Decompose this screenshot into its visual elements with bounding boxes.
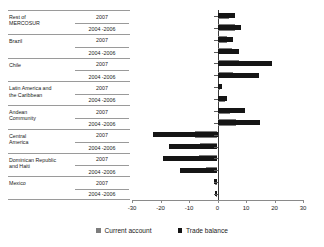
bar-trade-balance (218, 49, 239, 54)
bar-trade-balance (218, 61, 272, 66)
period-divider (75, 189, 129, 190)
category-group-label: Dominican Republicand Haiti (9, 154, 71, 170)
bar-trade-balance (218, 73, 259, 78)
period-label: 2007 (75, 156, 129, 162)
category-group-row: Dominican Republicand Haiti20072004 -200… (8, 153, 130, 177)
category-group-label: Chile (9, 59, 71, 68)
bar-trade-balance (218, 84, 223, 89)
category-group-label: CentralAmerica (9, 130, 71, 146)
category-group-row: Chile20072004 -2006 (8, 58, 130, 82)
category-group-row: Latin America andthe Caribbean20072004 -… (8, 81, 130, 105)
period-label: 2007 (75, 37, 129, 43)
period-label: 2004 -2006 (75, 121, 129, 127)
legend-item-current-account: Current account (96, 227, 151, 234)
legend-label-trade-balance: Trade balance (186, 227, 228, 234)
bar-trade-balance (218, 120, 260, 125)
period-label: 2007 (75, 180, 129, 186)
x-axis-tick-label: 30 (290, 205, 316, 211)
row-tick (214, 182, 218, 183)
legend-label-current-account: Current account (105, 227, 152, 234)
category-group-row: Brazil20072004 -2006 (8, 34, 130, 58)
x-axis-tick (132, 200, 133, 203)
period-label: 2004 -2006 (75, 50, 129, 56)
period-divider (75, 165, 129, 166)
x-axis-tick (275, 200, 276, 203)
period-label: 2007 (75, 61, 129, 67)
row-tick (214, 194, 218, 195)
row-tick (214, 28, 218, 29)
row-tick (214, 123, 218, 124)
bar-trade-balance (218, 96, 228, 101)
x-axis-tick-label: -30 (119, 205, 145, 211)
category-group-row: AndeanCommunity20072004 -2006 (8, 105, 130, 129)
period-divider (75, 47, 129, 48)
row-tick (214, 111, 218, 112)
bar-trade-balance (153, 132, 217, 137)
category-group-label: AndeanCommunity (9, 106, 71, 122)
period-label: 2007 (75, 14, 129, 20)
bar-trade-balance (218, 37, 233, 42)
period-label: 2004 -2006 (75, 169, 129, 175)
bar-trade-balance (218, 25, 241, 30)
period-label: 2007 (75, 85, 129, 91)
category-group-label: Mexico (9, 177, 71, 186)
row-tick (214, 63, 218, 64)
category-group-row: Mexico20072004 -2006 (8, 176, 130, 200)
x-axis-tick-label: -20 (148, 205, 174, 211)
category-group-row: Rest ofMERCOSUR20072004 -2006 (8, 10, 130, 34)
row-tick (214, 170, 218, 171)
x-axis-tick-label: 0 (205, 205, 231, 211)
x-axis-tick-label: -10 (176, 205, 202, 211)
x-axis-tick (189, 200, 190, 203)
x-axis-tick (246, 200, 247, 203)
period-label: 2004 -2006 (75, 191, 129, 197)
bar-trade-balance (218, 108, 245, 113)
period-label: 2004 -2006 (75, 97, 129, 103)
category-group-row: CentralAmerica20072004 -2006 (8, 129, 130, 153)
x-axis-tick (218, 200, 219, 203)
period-label: 2004 -2006 (75, 26, 129, 32)
bar-trade-balance (180, 168, 217, 173)
row-tick (214, 158, 218, 159)
row-tick (214, 16, 218, 17)
bar-trade-balance (218, 13, 236, 18)
category-group-label: Latin America andthe Caribbean (9, 82, 71, 98)
period-label: 2004 -2006 (75, 145, 129, 151)
bar-trade-balance (163, 156, 217, 161)
period-divider (75, 118, 129, 119)
bar-trade-balance (169, 144, 217, 149)
legend-item-trade-balance: Trade balance (178, 227, 228, 234)
row-tick (214, 87, 218, 88)
x-axis-tick-label: 10 (233, 205, 259, 211)
x-axis-tick (161, 200, 162, 203)
category-group-label: Rest ofMERCOSUR (9, 11, 71, 27)
row-tick (214, 99, 218, 100)
period-divider (75, 70, 129, 71)
period-divider (75, 94, 129, 95)
period-label: 2007 (75, 109, 129, 115)
row-tick (214, 75, 218, 76)
x-axis-tick (303, 200, 304, 203)
period-label: 2004 -2006 (75, 74, 129, 80)
x-axis-tick-label: 20 (262, 205, 288, 211)
chart-legend: Current account Trade balance (0, 227, 324, 234)
row-tick (214, 40, 218, 41)
row-tick (214, 52, 218, 53)
plot-area (132, 10, 303, 200)
bar-chart: Rest ofMERCOSUR20072004 -2006Brazil20072… (0, 0, 324, 247)
category-group-label: Brazil (9, 35, 71, 44)
period-label: 2007 (75, 132, 129, 138)
period-divider (75, 142, 129, 143)
legend-swatch-current-account (96, 228, 101, 233)
legend-swatch-trade-balance (178, 228, 183, 233)
period-divider (75, 23, 129, 24)
category-label-table: Rest ofMERCOSUR20072004 -2006Brazil20072… (8, 10, 130, 200)
row-tick (214, 135, 218, 136)
row-tick (214, 147, 218, 148)
